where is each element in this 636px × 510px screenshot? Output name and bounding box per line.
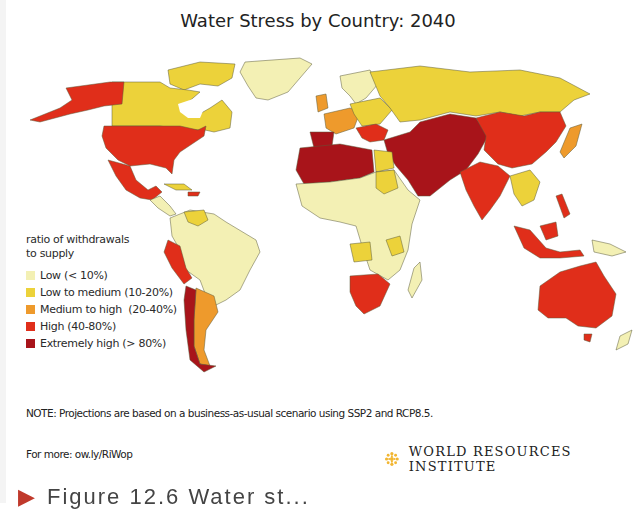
- legend-swatch-high: [26, 322, 35, 331]
- wri-branding: WORLD RESOURCES INSTITUTE: [383, 444, 636, 474]
- region-greenland: [240, 58, 312, 100]
- region-borneo: [540, 222, 558, 240]
- region-angola: [350, 242, 372, 262]
- projection-note: NOTE: Projections are based on a busines…: [26, 407, 433, 419]
- legend-label: Low (< 10%): [40, 269, 108, 282]
- region-china: [476, 112, 566, 168]
- region-uk: [316, 94, 328, 112]
- figure-caption: ▶Figure 12.6 Water st...: [18, 484, 310, 510]
- region-new-guinea: [592, 240, 626, 256]
- region-philippines: [556, 194, 570, 218]
- region-cuba: [164, 184, 192, 190]
- region-sub-saharan-africa: [296, 170, 420, 280]
- region-new-zealand: [616, 330, 632, 350]
- region-india: [460, 162, 510, 220]
- region-tasmania: [584, 334, 592, 342]
- region-hispaniola: [188, 192, 200, 196]
- legend-label: Low to medium (10-20%): [40, 286, 173, 299]
- caption-marker-icon: ▶: [18, 484, 37, 509]
- legend-item-medium-to-high: Medium to high (20-40%): [26, 301, 177, 318]
- region-southeast-asia: [510, 170, 540, 206]
- legend-label: High (40-80%): [40, 320, 116, 333]
- region-canada: [112, 82, 232, 132]
- region-mexico: [108, 160, 162, 200]
- legend-swatch-low-to-medium: [26, 288, 35, 297]
- region-central-america: [150, 196, 176, 216]
- legend-title: ratio of withdrawals to supply: [26, 233, 177, 261]
- legend-item-high: High (40-80%): [26, 318, 177, 335]
- wri-name: WORLD RESOURCES INSTITUTE: [409, 444, 636, 474]
- legend-item-low: Low (< 10%): [26, 267, 177, 284]
- region-canada-arctic: [168, 62, 235, 90]
- region-italy-balkans: [356, 124, 388, 142]
- legend-swatch-extremely-high: [26, 339, 35, 348]
- legend-swatch-low: [26, 271, 35, 280]
- caption-text: Figure 12.6 Water st...: [47, 484, 310, 509]
- legend-swatch-medium-to-high: [26, 305, 35, 314]
- legend-title-line-1: ratio of withdrawals: [26, 233, 177, 247]
- legend-item-low-to-medium: Low to medium (10-20%): [26, 284, 177, 301]
- legend-item-extremely-high: Extremely high (> 80%): [26, 335, 177, 352]
- region-egypt: [374, 150, 394, 172]
- region-argentina: [194, 288, 218, 366]
- region-alaska: [30, 82, 124, 122]
- more-info-link[interactable]: For more: ow.ly/RiWop: [26, 448, 132, 460]
- region-southern-africa: [350, 274, 390, 314]
- wri-logo-icon: [383, 449, 401, 469]
- map-legend: ratio of withdrawals to supply Low (< 10…: [26, 233, 177, 352]
- legend-label: Extremely high (> 80%): [40, 337, 166, 350]
- legend-title-line-2: to supply: [26, 247, 177, 261]
- region-madagascar: [408, 262, 422, 298]
- legend-label: Medium to high (20-40%): [40, 303, 177, 316]
- region-australia: [538, 262, 616, 328]
